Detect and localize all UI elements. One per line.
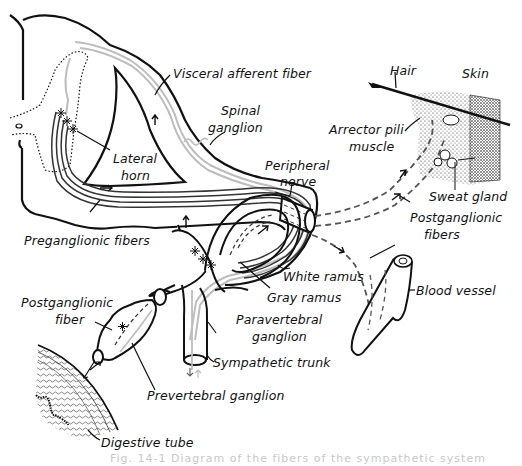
- label-paravertebral-ganglion-line2: ganglion: [252, 329, 307, 344]
- arrow-icon: [392, 194, 400, 200]
- arrow-icon: [400, 170, 406, 178]
- label-peripheral-nerve-line1: Peripheral: [265, 158, 330, 173]
- label-skin: Skin: [462, 66, 489, 81]
- prevertebral-leader: [132, 343, 155, 390]
- label-spinal-ganglion-line1: Spinal: [221, 103, 260, 118]
- label-prevertebral-ganglion: Prevertebral ganglion: [147, 388, 284, 403]
- label-postganglionic-fibers-line2: fibers: [424, 227, 460, 242]
- paravertebral-leader: [208, 322, 216, 333]
- label-postganglionic-fiber-line2: fiber: [55, 312, 84, 327]
- label-lateral-horn-line1: Lateral: [113, 151, 157, 166]
- skin-section: [410, 92, 500, 191]
- figure-caption: Fig. 14-1 Diagram of the fibers of the s…: [110, 452, 486, 465]
- label-sympathetic-trunk: Sympathetic trunk: [213, 355, 331, 370]
- label-sweat-gland: Sweat gland: [429, 189, 507, 204]
- label-hair: Hair: [390, 63, 416, 78]
- sympathetic-pathway-diagram: Visceral afferent fiber Spinal ganglion …: [0, 0, 522, 466]
- label-peripheral-nerve-line2: nerve: [280, 174, 316, 189]
- arrow-icon: [195, 370, 201, 378]
- label-visceral-afferent-fiber: Visceral afferent fiber: [173, 66, 311, 81]
- hair-tip: [368, 82, 382, 88]
- sympathetic-trunk: [155, 285, 248, 365]
- label-preganglionic-fibers: Preganglionic fibers: [24, 233, 150, 248]
- arrow-icon: [152, 115, 158, 125]
- arrow-icon: [334, 246, 344, 253]
- label-gray-ramus: Gray ramus: [267, 290, 341, 305]
- label-white-ramus: White ramus: [283, 269, 364, 284]
- label-arrector-pili-line1: Arrector pili: [329, 122, 404, 137]
- postganglionic-fibers-leader: [370, 245, 395, 258]
- label-postganglionic-fiber-line1: Postganglionic: [21, 295, 113, 310]
- arrow-icon: [258, 226, 268, 234]
- label-arrector-pili-line2: muscle: [349, 139, 394, 154]
- central-canal: [16, 124, 22, 128]
- label-blood-vessel: Blood vessel: [416, 283, 496, 298]
- preganglionic-leader: [90, 200, 100, 212]
- label-spinal-ganglion-line2: ganglion: [208, 120, 263, 135]
- label-lateral-horn-line2: horn: [121, 168, 150, 183]
- label-postganglionic-fibers-line1: Postganglionic: [410, 210, 502, 225]
- lateral-horn-leader: [77, 131, 110, 150]
- label-paravertebral-ganglion-line1: Paravertebral: [236, 312, 322, 327]
- label-digestive-tube: Digestive tube: [101, 435, 194, 450]
